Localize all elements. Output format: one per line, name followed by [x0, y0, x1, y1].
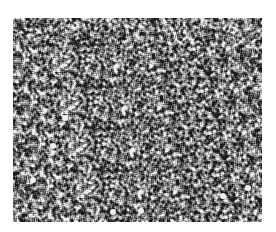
noise-texture: [13, 18, 262, 222]
texture-image: [13, 18, 262, 222]
